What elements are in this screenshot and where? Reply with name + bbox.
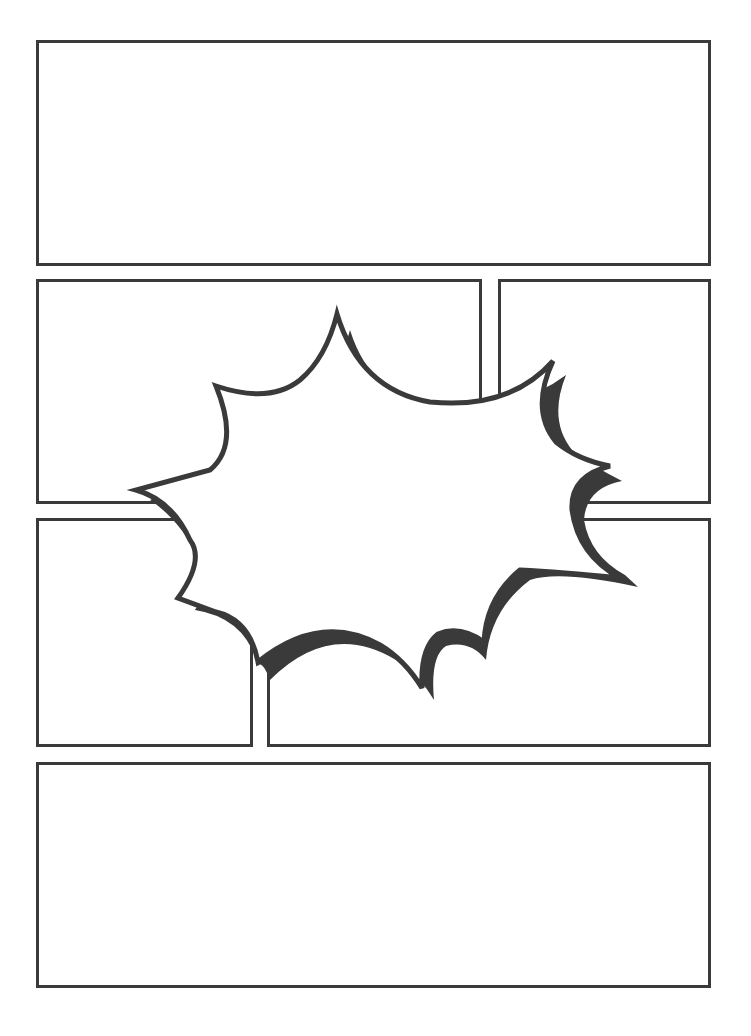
panel-row2-left[interactable] xyxy=(36,279,482,504)
panel-row3-left[interactable] xyxy=(36,518,253,747)
panel-top-wide[interactable] xyxy=(36,40,711,266)
panel-row3-right[interactable] xyxy=(267,518,711,747)
comic-page xyxy=(0,0,751,1036)
panel-row2-right[interactable] xyxy=(498,279,711,504)
panel-bottom-wide[interactable] xyxy=(36,762,711,988)
